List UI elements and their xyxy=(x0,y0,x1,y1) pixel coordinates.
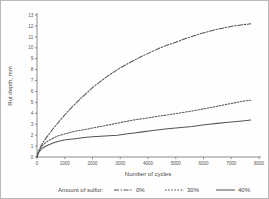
series-line-40pct xyxy=(37,120,251,157)
chart-canvas: 012345678910111213 010002000300040005000… xyxy=(1,1,269,199)
legend-title: Amount of sulfur: xyxy=(58,187,104,193)
x-tick-label: 6000 xyxy=(198,161,209,166)
y-tick-label: 11 xyxy=(29,35,34,40)
y-tick-label: 5 xyxy=(31,100,34,105)
x-axis-title: Number of cycles xyxy=(125,171,171,177)
x-axis: 010002000300040005000600070008000 xyxy=(36,157,265,166)
x-tick-label: 3000 xyxy=(115,161,126,166)
y-axis-title: Rut depth, mm xyxy=(7,66,13,105)
legend-label-0pct: 0% xyxy=(136,187,145,193)
y-tick-label: 10 xyxy=(28,45,34,50)
y-tick-label: 4 xyxy=(31,111,34,116)
chart-figure: 012345678910111213 010002000300040005000… xyxy=(0,0,269,199)
legend-label-40pct: 40% xyxy=(238,187,251,193)
y-tick-label: 2 xyxy=(31,133,34,138)
y-tick-label: 13 xyxy=(28,13,34,18)
legend-label-30pct: 30% xyxy=(187,187,200,193)
y-tick-label: 8 xyxy=(31,67,34,72)
series-line-30pct xyxy=(37,100,251,157)
series-line-0pct xyxy=(37,24,251,157)
x-tick-label: 8000 xyxy=(254,161,265,166)
y-tick-label: 9 xyxy=(31,56,34,61)
y-tick-label: 1 xyxy=(31,144,34,149)
chart-legend: Amount of sulfur:0%30%40% xyxy=(58,187,251,193)
y-axis: 012345678910111213 xyxy=(28,13,37,160)
x-tick-label: 2000 xyxy=(87,161,98,166)
y-tick-label: 7 xyxy=(31,78,34,83)
series-layer xyxy=(37,24,251,157)
y-tick-label: 12 xyxy=(28,24,34,29)
x-tick-label: 0 xyxy=(36,161,39,166)
y-tick-label: 0 xyxy=(31,155,34,160)
y-tick-label: 3 xyxy=(31,122,34,127)
x-tick-label: 7000 xyxy=(226,161,237,166)
y-tick-label: 6 xyxy=(31,89,34,94)
x-tick-label: 4000 xyxy=(143,161,154,166)
x-tick-label: 1000 xyxy=(60,161,71,166)
x-tick-label: 5000 xyxy=(171,161,182,166)
